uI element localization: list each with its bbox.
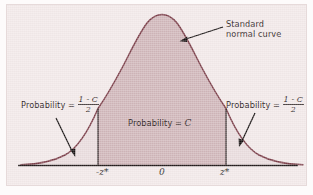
left-tail-area [21, 109, 98, 166]
annotation-probability-left-tail: Probability = 1 - C 2 [21, 96, 99, 115]
annotation-probability-center-value: C [185, 119, 192, 128]
fraction-right-numerator: 1 - C [283, 96, 305, 105]
figure-panel: Standard normal curve Probability = 1 - … [6, 4, 307, 186]
x-tick-label-negative-z: -z* [96, 168, 109, 177]
annotation-probability-right-prefix: Probability = [226, 101, 280, 109]
right-tail-area [226, 109, 303, 166]
fraction-right: 1 - C 2 [283, 96, 305, 115]
annotation-probability-center-prefix: Probability = [128, 119, 182, 127]
leader-arrow-left-tail [56, 118, 75, 157]
fraction-left-denominator: 2 [86, 105, 91, 114]
x-tick-label-zero: 0 [159, 168, 165, 177]
fraction-left: 1 - C 2 [78, 96, 100, 115]
leader-arrow-right-tail [239, 113, 255, 147]
annotation-probability-left-prefix: Probability = [21, 101, 75, 109]
x-tick-label-positive-z: z* [220, 168, 229, 177]
annotation-standard-normal-curve: Standard normal curve [226, 19, 281, 39]
fraction-right-denominator: 2 [291, 105, 296, 114]
annotation-standard-normal-curve-line2: normal curve [226, 29, 281, 39]
leader-arrow-standard-normal-curve [180, 27, 224, 42]
annotation-probability-right-tail: Probability = 1 - C 2 [226, 96, 304, 115]
shaded-central-area [98, 15, 226, 166]
annotation-probability-center: Probability = C [128, 119, 192, 128]
annotation-standard-normal-curve-line1: Standard [226, 19, 281, 29]
figure-root: Standard normal curve Probability = 1 - … [0, 0, 313, 195]
fraction-left-numerator: 1 - C [78, 96, 100, 105]
